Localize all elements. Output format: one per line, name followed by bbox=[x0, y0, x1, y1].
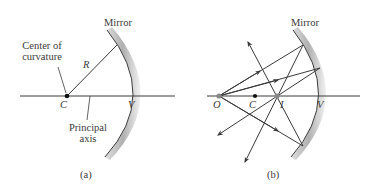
label-line: axis bbox=[62, 133, 114, 144]
center-point bbox=[65, 94, 70, 99]
c-label-b: C bbox=[249, 99, 256, 110]
radius-label: R bbox=[83, 59, 89, 70]
center-of-curvature-label: Center of curvature bbox=[18, 40, 66, 62]
center-point bbox=[253, 94, 257, 98]
principal-axis-label: Principal axis bbox=[62, 122, 114, 144]
mirror-surface bbox=[291, 30, 319, 157]
v-label-a: V bbox=[128, 99, 134, 110]
c-label-a: C bbox=[60, 99, 67, 110]
mirror-shading bbox=[291, 27, 326, 160]
object-point bbox=[216, 93, 221, 98]
center-pointer bbox=[58, 67, 66, 93]
mirror-label-b: Mirror bbox=[291, 17, 319, 28]
v-label-b: V bbox=[317, 99, 323, 110]
label-line: Center of bbox=[18, 40, 66, 51]
axis-pointer bbox=[87, 96, 90, 120]
i-label: I bbox=[280, 99, 284, 110]
o-label: O bbox=[213, 99, 221, 110]
radius-line bbox=[67, 45, 117, 96]
label-line: Principal bbox=[62, 122, 114, 133]
caption-b: (b) bbox=[267, 169, 279, 180]
label-line: curvature bbox=[18, 51, 66, 62]
image-point bbox=[274, 93, 279, 98]
panel-b bbox=[207, 27, 360, 162]
concave-mirror-diagram bbox=[0, 0, 376, 190]
caption-a: (a) bbox=[80, 169, 92, 180]
mirror-label-a: Mirror bbox=[104, 17, 132, 28]
